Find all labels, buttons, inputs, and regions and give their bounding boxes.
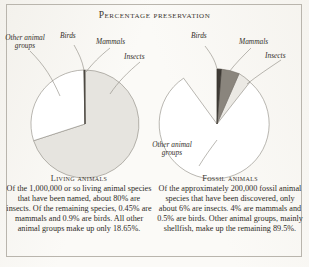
fossil-animals-chart: Birds Mammals Insects Other animal group…: [155, 26, 309, 174]
leader-line-birds: [205, 46, 217, 69]
label-other-animal-groups: Other animal groups: [149, 141, 195, 158]
fossil-animals-caption-text: Of the approximately 200,000 fossil anim…: [157, 184, 303, 234]
living-animals-chart: Other animal groups Birds Mammals Insect…: [0, 26, 154, 174]
label-birds: Birds: [191, 32, 207, 40]
living-animals-caption-heading: Living animals: [6, 174, 152, 183]
label-insects: Insects: [124, 53, 145, 61]
label-mammals: Mammals: [239, 38, 268, 46]
figure-title: Percentage preservation: [0, 10, 309, 20]
leader-line-insects: [247, 60, 281, 84]
leader-line-birds: [74, 45, 84, 70]
fossil-animals-caption-heading: Fossil animals: [157, 174, 303, 183]
leader-line-mammals: [86, 48, 110, 72]
captions-row: Living animals Of the 1,000,000 or so li…: [0, 174, 309, 260]
living-animals-caption: Living animals Of the 1,000,000 or so li…: [6, 174, 152, 234]
label-insects: Insects: [265, 52, 286, 60]
charts-row: Other animal groups Birds Mammals Insect…: [0, 26, 309, 174]
fossil-animals-caption: Fossil animals Of the approximately 200,…: [157, 174, 303, 234]
leader-line-mammals: [229, 48, 251, 72]
label-birds: Birds: [60, 32, 76, 40]
label-other-animal-groups: Other animal groups: [2, 34, 48, 51]
pie-slice-other-animal-groups: [159, 69, 269, 179]
living-animals-caption-text: Of the 1,000,000 or so living animal spe…: [6, 184, 152, 234]
label-mammals: Mammals: [96, 38, 125, 46]
